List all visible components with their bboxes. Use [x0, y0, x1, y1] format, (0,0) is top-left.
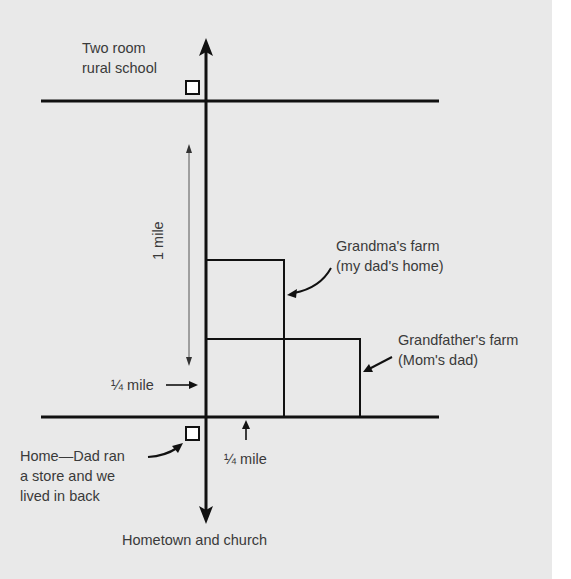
home-label-line1: Home—Dad ran	[20, 446, 125, 466]
school-label-line2: rural school	[82, 58, 157, 78]
grandma-label-line2: (my dad's home)	[336, 256, 444, 276]
arrow-up-small-icon	[242, 420, 250, 429]
grandma-pointer	[294, 268, 331, 293]
quarter-mile-left-label: ¼ mile	[111, 375, 154, 395]
home-marker	[186, 427, 199, 440]
home-pointer	[148, 448, 177, 457]
arrow-right-icon	[189, 381, 198, 389]
school-marker	[186, 81, 199, 94]
dimension-arrow-up-icon	[186, 144, 192, 153]
grandma-pointer-head-icon	[287, 289, 297, 298]
home-label-line3: lived in back	[20, 486, 100, 506]
grandma-label-line1: Grandma's farm	[336, 236, 440, 256]
one-mile-label: 1 mile	[148, 221, 168, 260]
home-pointer-head-icon	[172, 443, 183, 453]
grandfather-pointer	[369, 357, 392, 369]
home-label-line2: a store and we	[20, 466, 115, 486]
grandfather-label-line1: Grandfather's farm	[398, 330, 518, 350]
dimension-arrow-down-icon	[186, 357, 192, 366]
grandfather-label-line2: (Mom's dad)	[398, 350, 478, 370]
quarter-mile-bottom-label: ¼ mile	[224, 449, 267, 469]
school-label-line1: Two room	[82, 38, 146, 58]
hometown-label: Hometown and church	[122, 530, 267, 550]
